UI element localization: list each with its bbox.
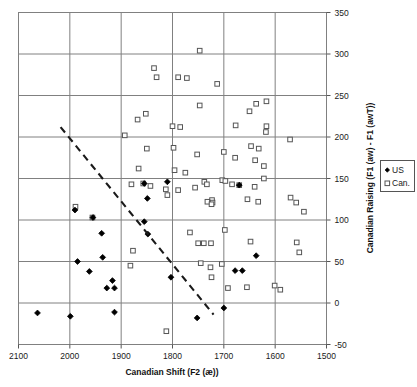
x-tick-label: 2100: [9, 351, 28, 361]
data-point-can: [262, 164, 267, 169]
data-point-can: [144, 111, 149, 116]
data-point-can: [129, 182, 134, 187]
y-tick-label: 150: [335, 174, 349, 184]
x-axis-title: Canadian Shift (F2 (æ)): [125, 367, 218, 377]
data-point-can: [165, 193, 170, 198]
x-tick-label: 1900: [112, 351, 131, 361]
data-point-can: [148, 184, 153, 189]
data-point-can: [252, 185, 257, 190]
data-point-can: [164, 187, 169, 192]
data-point-can: [262, 176, 267, 181]
x-tick-label: 1800: [163, 351, 182, 361]
y-axis-title: Canadian Raising (F1 (aw) - F1 (awT)): [365, 103, 375, 254]
data-point-can: [197, 103, 202, 108]
data-point-can: [131, 248, 136, 253]
data-point-can: [222, 150, 227, 155]
data-point-can: [249, 144, 254, 149]
legend-label-us: US: [392, 165, 404, 175]
y-tick-label: 350: [335, 8, 349, 18]
data-point-can: [230, 182, 235, 187]
data-point-can: [205, 182, 210, 187]
data-point-can: [208, 265, 213, 270]
data-point-can: [209, 275, 214, 280]
data-point-can: [135, 117, 140, 122]
data-point-can: [226, 286, 231, 291]
data-point-can: [145, 146, 150, 151]
y-tick-label: 200: [335, 132, 349, 142]
data-point-can: [256, 146, 261, 151]
data-point-can: [294, 200, 299, 205]
y-tick-label: 50: [335, 257, 345, 267]
data-point-can: [176, 188, 181, 193]
data-point-can: [188, 230, 193, 235]
data-point-can: [152, 66, 157, 71]
y-tick-label: 300: [335, 49, 349, 59]
data-point-can: [264, 99, 269, 104]
data-point-can: [164, 329, 169, 334]
data-point-can: [196, 241, 201, 246]
data-point-can: [233, 155, 238, 160]
y-tick-label: 0: [335, 298, 340, 308]
data-point-can: [197, 48, 202, 53]
data-point-can: [264, 124, 269, 129]
x-tick-label: 1500: [317, 351, 336, 361]
data-point-can: [288, 137, 293, 142]
data-point-can: [195, 152, 200, 157]
data-point-can: [272, 283, 277, 288]
x-tick-label: 1600: [266, 351, 285, 361]
data-point-can: [209, 241, 214, 246]
scatter-plot-figure: 2100200019001800170016001500 -5005010015…: [0, 0, 417, 387]
data-point-can: [154, 75, 159, 80]
data-point-can: [172, 168, 177, 173]
data-point-can: [128, 263, 133, 268]
x-tick-label: 2000: [60, 351, 79, 361]
data-point-can: [248, 239, 253, 244]
x-tick-label: 1700: [214, 351, 233, 361]
data-point-can: [245, 285, 250, 290]
data-point-can: [202, 241, 207, 246]
data-point-can: [254, 102, 259, 107]
data-point-can: [136, 166, 141, 171]
data-point-can: [294, 240, 299, 245]
chart-background: [0, 0, 417, 387]
chart-canvas: 2100200019001800170016001500 -5005010015…: [0, 0, 417, 387]
data-point-can: [193, 185, 198, 190]
data-point-can: [233, 123, 238, 128]
data-point-can: [215, 82, 220, 87]
data-point-can: [278, 287, 283, 292]
data-point-can: [209, 202, 214, 207]
data-point-can: [223, 228, 228, 233]
data-point-can: [302, 209, 307, 214]
data-point-can: [297, 250, 302, 255]
legend: US Can.: [381, 161, 415, 192]
data-point-can: [178, 125, 183, 130]
data-point-can: [253, 158, 258, 163]
data-point-can: [185, 76, 190, 81]
data-point-can: [183, 170, 188, 175]
y-tick-label: -50: [335, 340, 348, 350]
data-point-can: [219, 262, 224, 267]
data-point-can: [171, 145, 176, 150]
data-point-can: [247, 109, 252, 114]
data-point-can: [122, 133, 127, 138]
data-point-can: [256, 199, 261, 204]
data-point-can: [264, 130, 269, 135]
data-point-can: [176, 75, 181, 80]
data-point-can: [288, 195, 293, 200]
data-point-can: [245, 197, 250, 202]
legend-label-can: Can.: [392, 178, 410, 188]
legend-marker-can-icon: [385, 181, 390, 186]
y-tick-label: 100: [335, 215, 349, 225]
data-point-can: [223, 179, 228, 184]
y-tick-label: 250: [335, 91, 349, 101]
data-point-can: [198, 261, 203, 266]
data-point-can: [170, 124, 175, 129]
